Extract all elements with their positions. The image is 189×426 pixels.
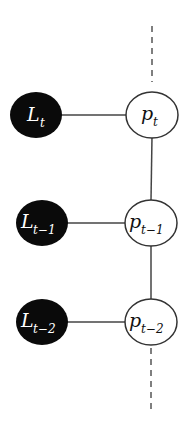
latent-node-pt-2: p t−2: [125, 299, 177, 345]
hmm-diagram: L t p t L t−1 p t−1 L t−2 p t−2: [0, 0, 189, 426]
node-subscript: t−2: [141, 322, 164, 336]
node-subscript: t: [40, 116, 45, 130]
node-subscript: t−1: [33, 223, 56, 237]
observed-node-Lt-1: L t−1: [16, 200, 68, 246]
node-label: p: [129, 210, 141, 232]
node-subscript: t−2: [33, 322, 56, 336]
latent-node-pt-1: p t−1: [125, 200, 177, 246]
edge-pt-pt1: [151, 137, 152, 200]
node-label: p: [141, 102, 153, 124]
node-label: p: [129, 309, 141, 331]
observed-node-Lt-2: L t−2: [16, 299, 68, 345]
latent-node-pt: p t: [126, 92, 178, 138]
node-label: L: [26, 103, 40, 125]
node-label: L: [20, 309, 34, 331]
observed-node-Lt: L t: [10, 92, 62, 138]
node-label: L: [20, 210, 34, 232]
node-subscript: t: [153, 115, 158, 129]
node-subscript: t−1: [141, 223, 164, 237]
